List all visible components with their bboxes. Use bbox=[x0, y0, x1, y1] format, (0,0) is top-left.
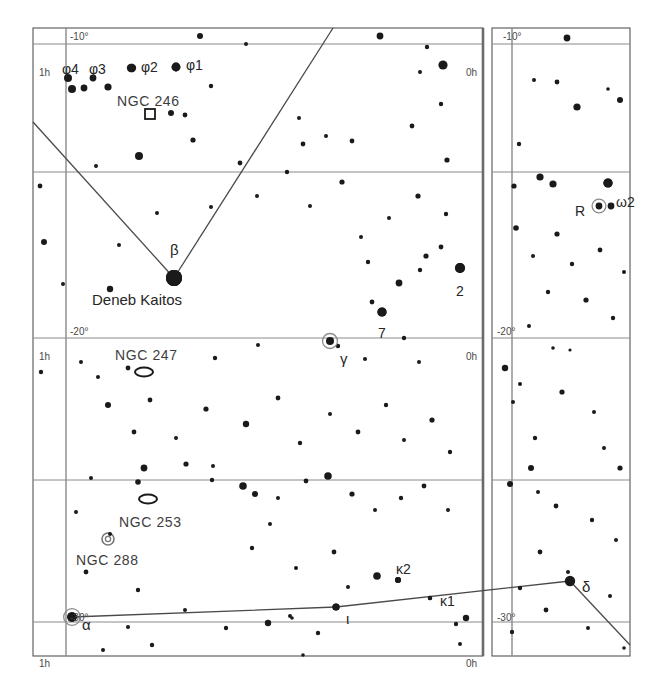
star-marker bbox=[276, 496, 280, 500]
star-marker bbox=[108, 532, 112, 536]
star-marker bbox=[316, 631, 320, 635]
star-marker bbox=[41, 239, 47, 245]
star-marker bbox=[517, 142, 521, 146]
star-marker bbox=[150, 643, 154, 647]
star-marker bbox=[532, 78, 536, 82]
ra-label-right-top: 0h bbox=[466, 68, 477, 78]
star-marker bbox=[608, 594, 612, 598]
star-marker bbox=[105, 402, 111, 408]
star-marker bbox=[203, 406, 208, 411]
star-marker bbox=[197, 33, 203, 39]
star-marker bbox=[350, 139, 355, 144]
line-delta-outward bbox=[570, 581, 630, 645]
dec-label-rightpanel-bottom: -30° bbox=[497, 613, 515, 623]
star-marker bbox=[255, 194, 259, 198]
dso-marker-galaxy bbox=[139, 495, 157, 504]
star-marker bbox=[294, 566, 298, 570]
star-marker-labeled bbox=[428, 596, 432, 600]
star-marker bbox=[224, 626, 228, 630]
star-marker bbox=[359, 235, 363, 239]
star-marker bbox=[339, 179, 344, 184]
star-marker bbox=[243, 421, 249, 427]
star-marker bbox=[527, 324, 531, 328]
star-marker bbox=[518, 586, 522, 590]
star-marker bbox=[363, 357, 367, 361]
star-label-ω2: ω2 bbox=[616, 195, 635, 209]
star-marker bbox=[104, 83, 111, 90]
star-marker bbox=[402, 438, 406, 442]
star-marker bbox=[94, 164, 98, 168]
star-marker bbox=[510, 630, 514, 634]
star-label-φ3: φ3 bbox=[89, 62, 106, 76]
star-marker bbox=[213, 356, 217, 360]
star-marker bbox=[598, 248, 603, 253]
dso-label-ngc-253: NGC 253 bbox=[119, 515, 182, 529]
star-marker bbox=[81, 85, 88, 92]
star-marker bbox=[533, 436, 537, 440]
star-marker-labeled bbox=[596, 203, 603, 210]
star-marker bbox=[190, 137, 195, 142]
star-marker bbox=[324, 134, 328, 138]
star-marker bbox=[155, 211, 159, 215]
star-marker bbox=[622, 646, 626, 650]
star-marker-labeled bbox=[565, 576, 575, 586]
star-marker bbox=[209, 205, 213, 209]
star-marker-labeled bbox=[395, 577, 401, 583]
star-marker bbox=[332, 550, 337, 555]
star-marker-labeled bbox=[603, 178, 612, 187]
star-marker bbox=[564, 35, 571, 42]
star-marker bbox=[174, 436, 178, 440]
star-marker bbox=[285, 170, 289, 174]
star-marker bbox=[511, 183, 516, 188]
star-marker bbox=[135, 152, 143, 160]
star-marker bbox=[324, 472, 332, 480]
star-marker bbox=[546, 290, 550, 294]
star-marker bbox=[439, 245, 444, 250]
star-label-φ4: φ4 bbox=[62, 62, 79, 76]
star-marker bbox=[531, 254, 535, 258]
star-marker bbox=[551, 346, 555, 350]
dec-label-left-mid: -20° bbox=[70, 327, 88, 337]
star-marker bbox=[61, 282, 65, 286]
star-marker bbox=[135, 479, 141, 485]
star-marker bbox=[265, 620, 271, 626]
star-label-κ2: κ2 bbox=[396, 562, 411, 576]
star-marker bbox=[238, 161, 243, 166]
star-marker bbox=[429, 417, 434, 422]
star-marker bbox=[614, 538, 618, 542]
star-marker bbox=[387, 216, 391, 220]
star-marker bbox=[210, 478, 214, 482]
star-marker bbox=[566, 570, 570, 574]
star-marker bbox=[502, 365, 508, 371]
dec-label-rightpanel-top: -10° bbox=[503, 32, 521, 42]
star-marker bbox=[608, 203, 615, 210]
star-marker bbox=[148, 398, 153, 403]
star-label-φ1: φ1 bbox=[186, 58, 203, 72]
star-marker bbox=[209, 84, 213, 88]
star-marker bbox=[513, 225, 519, 231]
star-marker bbox=[573, 103, 580, 110]
dec-label-rightpanel-mid: -20° bbox=[497, 327, 515, 337]
star-marker bbox=[418, 70, 422, 74]
star-marker bbox=[301, 653, 305, 657]
star-marker bbox=[89, 476, 93, 480]
star-label-deneb-kaitos: Deneb Kaitos bbox=[92, 292, 182, 307]
star-marker bbox=[297, 116, 301, 120]
star-marker bbox=[425, 45, 429, 49]
star-marker bbox=[617, 465, 622, 470]
star-marker bbox=[84, 570, 89, 575]
star-marker bbox=[444, 157, 449, 162]
star-marker bbox=[622, 270, 626, 274]
dso-label-ngc-288: NGC 288 bbox=[76, 553, 139, 567]
sky-map-canvas bbox=[0, 0, 662, 695]
star-marker bbox=[458, 642, 462, 646]
star-chart: NGC 246NGC 247NGC 253NGC 288φ4φ3φ2φ1βDen… bbox=[0, 0, 662, 695]
ra-label-right-bottom: 0h bbox=[466, 659, 477, 669]
dec-label-left-top: -10° bbox=[70, 32, 88, 42]
star-label-r: R bbox=[575, 204, 585, 218]
star-marker bbox=[417, 360, 421, 364]
star-marker bbox=[377, 33, 384, 40]
star-marker bbox=[399, 496, 403, 500]
star-marker bbox=[439, 102, 443, 106]
star-marker bbox=[74, 510, 78, 514]
